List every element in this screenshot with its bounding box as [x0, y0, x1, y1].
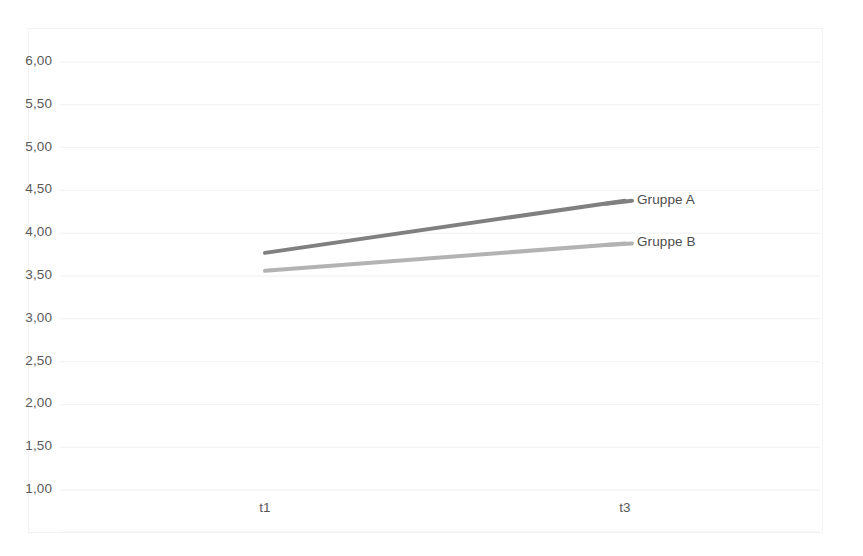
y-axis-tick-label: 3,00 [0, 310, 52, 325]
x-axis-tick-label: t3 [585, 500, 665, 515]
y-axis-tick-label: 5,50 [0, 96, 52, 111]
series-line-group [265, 201, 625, 271]
y-axis-tick-label: 1,50 [0, 438, 52, 453]
y-axis-tick-label: 4,50 [0, 181, 52, 196]
legend-swatch-2 [606, 243, 632, 245]
legend-label-1: Gruppe A [637, 192, 695, 207]
y-axis-tick-label: 2,50 [0, 353, 52, 368]
y-axis-tick-label: 3,50 [0, 267, 52, 282]
legend-label-2: Gruppe B [637, 234, 696, 249]
line-chart: 6,005,505,004,504,003,503,002,502,001,50… [0, 0, 863, 556]
y-axis-tick-label: 6,00 [0, 53, 52, 68]
y-axis-tick-label: 5,00 [0, 139, 52, 154]
gridline-group [60, 62, 820, 532]
legend-swatch-group [606, 201, 632, 245]
y-axis-tick-label: 4,00 [0, 224, 52, 239]
y-axis-tick-label: 2,00 [0, 395, 52, 410]
series-line-2 [265, 243, 625, 270]
chart-canvas [0, 0, 863, 556]
x-axis-tick-label: t1 [225, 500, 305, 515]
series-line-1 [265, 201, 625, 253]
y-axis-tick-label: 1,00 [0, 481, 52, 496]
